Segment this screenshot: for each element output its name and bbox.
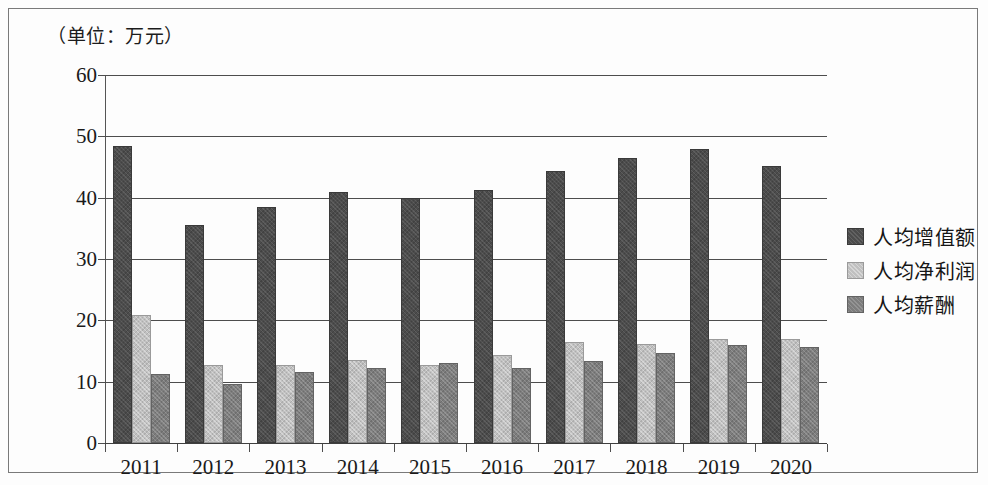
legend-item: 人均增值额 bbox=[847, 219, 976, 253]
bar bbox=[223, 384, 242, 443]
x-axis-tick-label: 2018 bbox=[607, 455, 687, 480]
y-axis-tick-label: 60 bbox=[57, 63, 97, 88]
y-axis-tick-label: 50 bbox=[57, 124, 97, 149]
legend-item: 人均净利润 bbox=[847, 253, 976, 287]
bar bbox=[709, 339, 728, 443]
chart-screenshot: （单位：万元） 0102030405060 201120122013201420… bbox=[0, 0, 988, 485]
y-axis-tick-label: 30 bbox=[57, 247, 97, 272]
bar bbox=[546, 171, 565, 443]
y-axis-tick bbox=[98, 198, 105, 199]
bar-group bbox=[257, 75, 314, 443]
bar bbox=[618, 158, 637, 443]
bar bbox=[185, 225, 204, 443]
y-axis-tick-label: 20 bbox=[57, 308, 97, 333]
x-axis-tick bbox=[755, 444, 756, 452]
y-axis-tick bbox=[98, 443, 105, 444]
legend-label: 人均净利润 bbox=[873, 256, 976, 285]
bar bbox=[257, 207, 276, 443]
legend-label: 人均薪酬 bbox=[873, 290, 955, 319]
bar bbox=[656, 353, 675, 443]
x-axis-tick bbox=[394, 444, 395, 452]
bar bbox=[474, 190, 493, 443]
bar bbox=[728, 345, 747, 443]
bar-group bbox=[113, 75, 170, 443]
bar bbox=[367, 368, 386, 443]
y-axis-tick-label: 10 bbox=[57, 369, 97, 394]
bar-group bbox=[401, 75, 458, 443]
bar-group bbox=[474, 75, 531, 443]
legend-item: 人均薪酬 bbox=[847, 287, 976, 321]
x-axis-tick-label: 2015 bbox=[390, 455, 470, 480]
unit-label: （单位：万元） bbox=[47, 21, 184, 48]
chart-frame: （单位：万元） 0102030405060 201120122013201420… bbox=[8, 8, 978, 473]
bar bbox=[690, 149, 709, 443]
x-axis-tick bbox=[610, 444, 611, 452]
y-axis-tick bbox=[98, 259, 105, 260]
bar bbox=[132, 315, 151, 443]
x-axis-tick bbox=[105, 444, 106, 452]
x-axis-tick-label: 2011 bbox=[101, 455, 181, 480]
x-axis-tick-label: 2012 bbox=[173, 455, 253, 480]
bar-group bbox=[618, 75, 675, 443]
x-axis-tick bbox=[466, 444, 467, 452]
x-axis-tick bbox=[177, 444, 178, 452]
y-axis-tick bbox=[98, 320, 105, 321]
x-axis-tick bbox=[827, 444, 828, 452]
x-axis-tick-label: 2019 bbox=[679, 455, 759, 480]
bar bbox=[493, 355, 512, 443]
bar bbox=[113, 146, 132, 443]
x-axis-tick bbox=[538, 444, 539, 452]
bar bbox=[329, 192, 348, 443]
y-axis-tick bbox=[98, 382, 105, 383]
bar bbox=[204, 365, 223, 443]
legend-swatch-icon bbox=[847, 228, 864, 245]
y-axis-tick bbox=[98, 136, 105, 137]
bar-group bbox=[762, 75, 819, 443]
bar bbox=[800, 347, 819, 443]
bar bbox=[439, 363, 458, 443]
bar bbox=[295, 372, 314, 443]
bar-group bbox=[690, 75, 747, 443]
bar bbox=[512, 368, 531, 443]
bar bbox=[401, 198, 420, 443]
bar bbox=[637, 344, 656, 443]
bar bbox=[151, 374, 170, 443]
x-axis-tick bbox=[322, 444, 323, 452]
x-axis-tick bbox=[249, 444, 250, 452]
legend-swatch-icon bbox=[847, 296, 864, 313]
legend-swatch-icon bbox=[847, 262, 864, 279]
legend-label: 人均增值额 bbox=[873, 222, 976, 251]
bar-group bbox=[185, 75, 242, 443]
bar-group bbox=[546, 75, 603, 443]
bar bbox=[762, 166, 781, 443]
y-axis-tick-label: 0 bbox=[57, 431, 97, 456]
chart-legend: 人均增值额人均净利润人均薪酬 bbox=[847, 219, 976, 321]
bar-group bbox=[329, 75, 386, 443]
bar bbox=[348, 360, 367, 443]
bar bbox=[420, 365, 439, 443]
y-axis-tick bbox=[98, 75, 105, 76]
x-axis-tick-label: 2014 bbox=[318, 455, 398, 480]
y-axis-tick-label: 40 bbox=[57, 185, 97, 210]
x-axis-tick-label: 2016 bbox=[462, 455, 542, 480]
bar bbox=[584, 361, 603, 443]
bar bbox=[276, 365, 295, 444]
x-axis-tick-label: 2013 bbox=[246, 455, 326, 480]
x-axis-tick-label: 2020 bbox=[751, 455, 831, 480]
bar bbox=[781, 339, 800, 443]
x-axis-tick bbox=[683, 444, 684, 452]
bar bbox=[565, 342, 584, 443]
x-axis-tick-label: 2017 bbox=[534, 455, 614, 480]
plot-area bbox=[105, 75, 827, 443]
